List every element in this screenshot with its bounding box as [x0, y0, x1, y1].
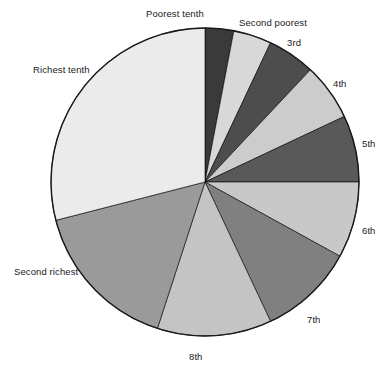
- pie-label-6th: 6th: [362, 226, 376, 236]
- pie-label-richest-tenth: Richest tenth: [33, 65, 90, 75]
- pie-label-poorest-tenth: Poorest tenth: [146, 9, 204, 19]
- pie-label-4th: 4th: [333, 79, 347, 89]
- pie-chart: Poorest tenthSecond poorest3rd4th5th6th7…: [0, 0, 389, 374]
- pie-label-8th: 8th: [189, 352, 203, 362]
- pie-label-5th: 5th: [362, 139, 376, 149]
- pie-label-second-poorest: Second poorest: [239, 18, 307, 28]
- pie-chart-canvas: [0, 0, 389, 374]
- pie-label-second-richest: Second richest: [14, 267, 78, 277]
- pie-slices-group: [51, 28, 359, 336]
- pie-label-3rd: 3rd: [287, 38, 301, 48]
- pie-label-7th: 7th: [307, 315, 321, 325]
